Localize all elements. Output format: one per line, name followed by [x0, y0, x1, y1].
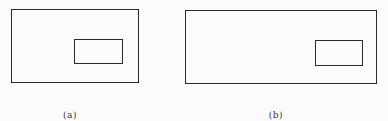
inner-rectangle-b — [315, 40, 363, 66]
caption-b: (b) — [269, 110, 283, 120]
inner-rectangle-a — [74, 39, 123, 64]
caption-a: (a) — [63, 110, 77, 120]
